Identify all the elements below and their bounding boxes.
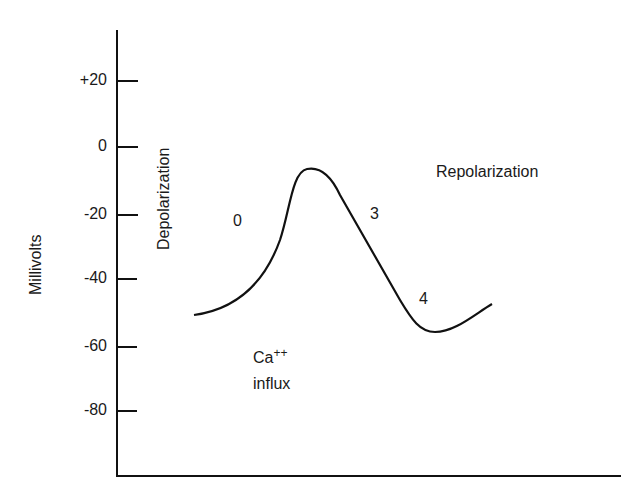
depolarization-label: Depolarization [155,148,173,250]
tick-label: -60 [47,337,107,355]
tick-label: -40 [47,269,107,287]
y-ticks [117,81,138,411]
ca-text: Ca [253,349,273,366]
action-potential-curve [194,169,492,332]
phase-0-label: 0 [233,212,242,230]
tick-label: 0 [47,137,107,155]
influx-text: influx [253,375,290,392]
phase-3-label: 3 [370,205,379,223]
tick-label: -80 [47,401,107,419]
ca-charge: ++ [273,346,287,360]
tick-label: -20 [47,205,107,223]
repolarization-label: Repolarization [436,163,538,181]
tick-label: +20 [47,71,107,89]
ca-influx-label: Ca++ influx [253,340,290,397]
phase-4-label: 4 [419,290,428,308]
y-axis-label: Millivolts [27,235,45,295]
